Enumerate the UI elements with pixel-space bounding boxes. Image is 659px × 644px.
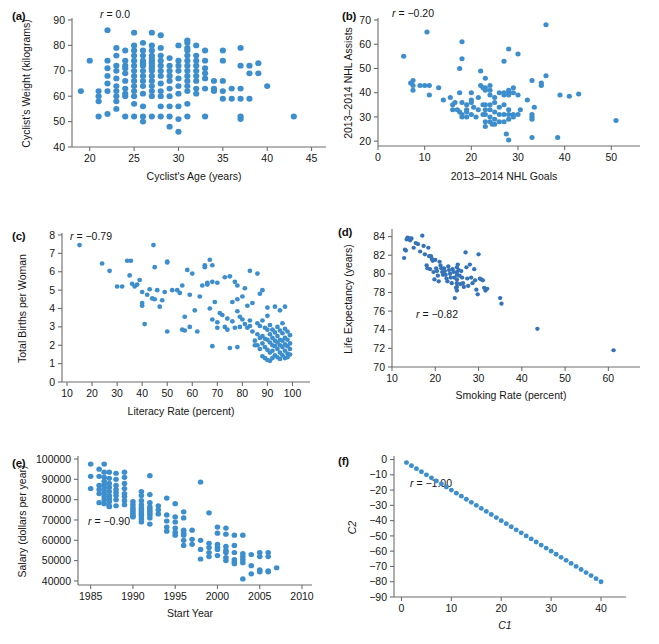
y-tick-label: 60000 (42, 534, 71, 546)
data-point (122, 475, 128, 480)
data-point (229, 96, 235, 102)
data-point (439, 482, 444, 487)
data-point (206, 545, 212, 550)
data-point (211, 88, 217, 94)
data-point (501, 59, 506, 64)
data-point (193, 63, 199, 69)
data-point (529, 537, 534, 542)
data-point (184, 78, 190, 84)
correlation-annotation: r = −0.20 (392, 7, 434, 19)
data-point (487, 114, 492, 119)
y-tick-label: 40000 (42, 575, 71, 587)
data-point (96, 467, 102, 472)
data-point (549, 549, 554, 554)
x-tick-label: 10 (61, 387, 73, 399)
data-point (511, 85, 516, 90)
data-point (122, 86, 128, 92)
y-tick-label: 40 (53, 141, 65, 153)
data-point (96, 114, 102, 120)
data-point (193, 53, 199, 59)
data-point (265, 569, 271, 574)
x-tick-label: 90 (262, 387, 274, 399)
data-point (245, 303, 250, 308)
data-point (158, 103, 164, 109)
data-point (434, 479, 439, 484)
data-point (147, 287, 152, 292)
data-point (184, 114, 190, 120)
data-point (149, 48, 155, 54)
data-point (492, 110, 497, 115)
data-point (611, 348, 615, 352)
data-point (142, 322, 147, 327)
data-point (202, 86, 208, 92)
data-point (223, 532, 229, 537)
data-point (515, 93, 520, 98)
y-tick-label: −20 (369, 484, 387, 496)
data-point (139, 519, 145, 524)
x-tick-label: 20 (465, 151, 477, 163)
x-tick-label: 60 (186, 387, 198, 399)
data-point (455, 285, 459, 289)
data-point (232, 543, 238, 548)
data-point (200, 283, 205, 288)
data-point (181, 538, 187, 543)
y-tick-label: 70 (373, 361, 385, 373)
data-point (167, 114, 173, 120)
data-point (184, 68, 190, 74)
data-point (210, 263, 215, 268)
data-point (140, 53, 146, 59)
data-point (78, 88, 84, 94)
y-tick-label: −40 (369, 514, 387, 526)
data-point (423, 252, 427, 256)
data-point (449, 488, 454, 493)
data-point (235, 309, 240, 314)
data-point (230, 319, 235, 324)
data-point (237, 63, 243, 69)
data-point (476, 95, 481, 100)
y-tick-label: 70000 (42, 514, 71, 526)
data-point (223, 558, 229, 563)
y-tick-label: 40 (359, 86, 371, 98)
data-point (175, 83, 181, 89)
data-point (501, 119, 506, 124)
data-point (167, 68, 173, 74)
data-point (187, 325, 192, 330)
y-tick-label: 7 (49, 247, 55, 259)
data-point (113, 106, 119, 112)
data-point (497, 112, 502, 117)
data-point (165, 329, 170, 334)
y-tick-label: 20 (359, 135, 371, 147)
data-point (181, 509, 187, 514)
data-point (478, 68, 483, 73)
data-point (88, 474, 94, 479)
correlation-annotation: r = 0.0 (100, 8, 130, 20)
data-point (246, 70, 252, 76)
data-point (589, 573, 594, 578)
data-point (131, 30, 137, 36)
y-tick-label: −10 (369, 468, 387, 480)
data-point (167, 63, 173, 69)
y-tick-label: 70 (53, 64, 65, 76)
data-point (106, 476, 112, 481)
data-point (483, 102, 488, 107)
data-point (426, 246, 430, 250)
data-point (189, 542, 195, 547)
data-point (497, 105, 502, 110)
data-point (240, 317, 245, 322)
data-point (525, 97, 530, 102)
data-point (131, 68, 137, 74)
data-point (232, 561, 238, 566)
data-point (260, 318, 265, 323)
data-point (149, 114, 155, 120)
data-point (211, 78, 217, 84)
data-point (202, 265, 207, 270)
x-tick-label: 2010 (290, 590, 314, 602)
data-point (128, 258, 133, 263)
data-point (185, 268, 190, 273)
data-point (484, 509, 489, 514)
data-point (459, 56, 464, 61)
data-point (177, 291, 182, 296)
data-point (167, 78, 173, 84)
data-point (461, 281, 465, 285)
data-point (532, 105, 537, 110)
